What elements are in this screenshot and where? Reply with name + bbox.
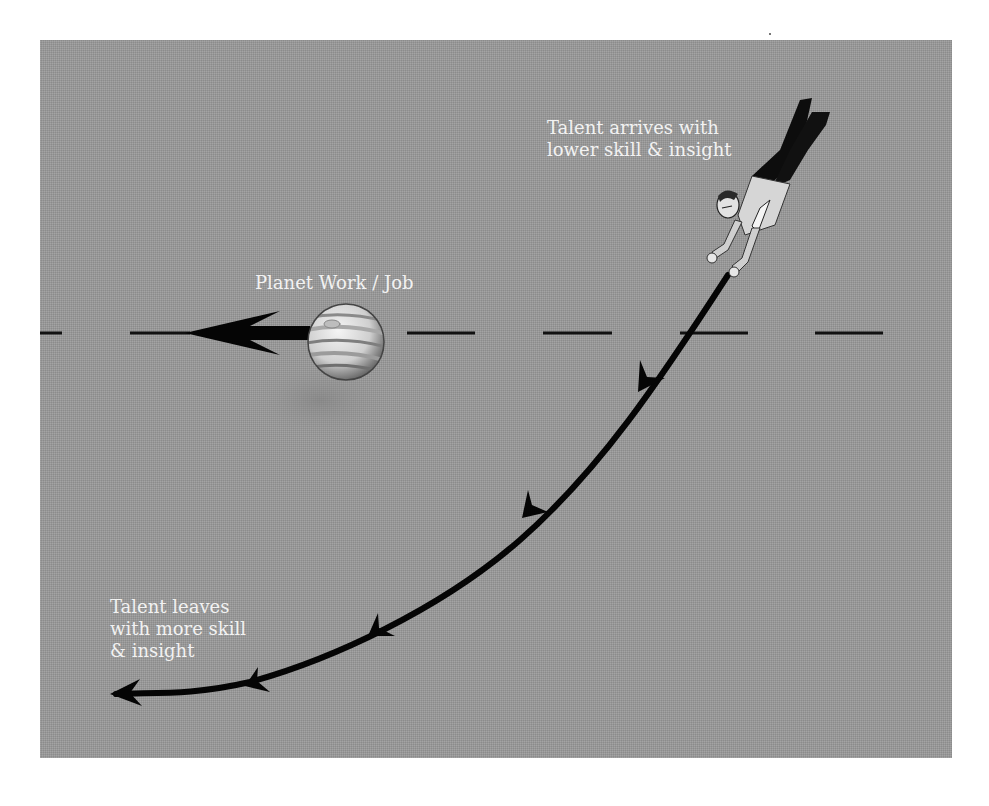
label-talent-leaves: Talent leaves with more skill & insight: [110, 596, 246, 662]
label-line: Talent leaves: [110, 596, 246, 618]
label-talent-arrives: Talent arrives with lower skill & insigh…: [547, 117, 732, 161]
diagram-scene: [0, 0, 989, 806]
planet-motion-arrow-icon: [185, 311, 310, 355]
label-line: lower skill & insight: [547, 139, 732, 161]
planet-shadow: [245, 360, 395, 440]
label-line: Talent arrives with: [547, 117, 732, 139]
label-line: with more skill: [110, 618, 246, 640]
label-planet-work-job: Planet Work / Job: [255, 272, 414, 294]
label-line: & insight: [110, 640, 246, 662]
label-line: Planet Work / Job: [255, 272, 414, 294]
